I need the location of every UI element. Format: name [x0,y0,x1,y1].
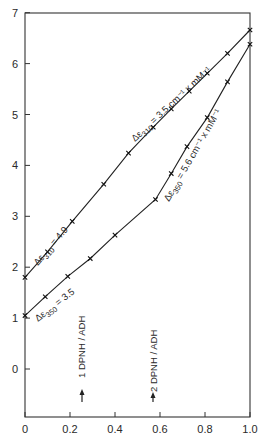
chart: 01234567 00.20.40.60.81.0 Δε310 = 4.9 Δε… [0,0,264,444]
x-tick-label: 0 [22,423,28,435]
data-point-marker [43,295,47,299]
y-tick-label: 1 [12,312,18,324]
y-tick-label: 0 [12,363,18,375]
arrow-up-icon [80,389,85,402]
series-group [23,28,252,318]
arrow-up-icon [151,392,156,402]
annotation-lower-left: Δε350 = 3.5 [32,286,78,326]
y-tick-label: 6 [12,58,18,70]
y-tick-label: 4 [12,159,18,171]
x-tick-label: 0.2 [62,423,77,435]
y-tick-label: 5 [12,109,18,121]
data-point-marker [153,197,157,201]
data-point-marker [102,182,106,186]
y-tick-label: 7 [12,7,18,19]
data-point-marker [70,219,74,223]
y-tick-label: 2 [12,261,18,273]
y-tick-label: 3 [12,210,18,222]
data-point-marker [169,171,173,175]
data-point-marker [185,144,189,148]
x-tick-label: 0.8 [197,423,212,435]
marker-2-label: 2 DPNH / ADH [148,330,159,392]
x-tick-label: 0.4 [107,423,122,435]
marker-1-label: 1 DPNH / ADH [76,316,87,378]
series-line-2 [25,44,250,315]
x-tick-label: 1.0 [242,423,257,435]
annotation-lower-right: Δε350 = 5.6 cm⁻¹ x mM⁻¹ [161,107,225,205]
x-axis: 00.20.40.60.81.0 [22,412,258,435]
data-point-marker [126,151,130,155]
annotation-upper-left: Δε310 = 4.9 [31,224,72,269]
data-point-marker [88,256,92,260]
y-axis: 01234567 [12,7,30,375]
data-point-marker [113,233,117,237]
data-point-marker [66,274,70,278]
data-point-marker [225,80,229,84]
x-tick-label: 0.6 [152,423,167,435]
data-point-marker [225,51,229,55]
